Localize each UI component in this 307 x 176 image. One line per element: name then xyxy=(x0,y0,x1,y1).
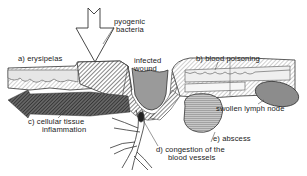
infection-diagram xyxy=(0,0,307,176)
label-blood-poisoning: b) blood poisoning xyxy=(196,55,260,63)
label-abscess: e) abscess xyxy=(213,135,251,143)
label-infected-wound-2: wound xyxy=(134,65,157,73)
label-cellular-tissue-2: inflammation xyxy=(42,126,86,134)
label-pyogenic-bacteria-2: bacteria xyxy=(116,26,144,34)
pyogenic-bacteria-arrow xyxy=(76,8,114,62)
label-congestion-2: blood vessels xyxy=(168,154,215,162)
label-erysipelas: a) erysipelas xyxy=(18,55,62,63)
label-swollen-lymph-node: swollen lymph node xyxy=(216,105,285,113)
cellular-tissue-arrow xyxy=(8,90,130,118)
